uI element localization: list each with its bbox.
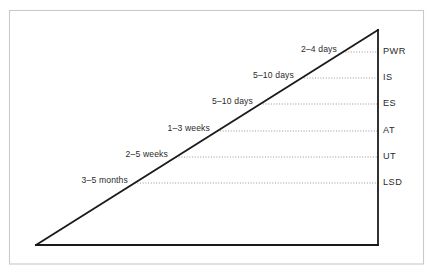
duration-label-at: 1–3 weeks: [112, 124, 210, 133]
duration-label-is: 5–10 days: [196, 71, 294, 80]
duration-label-pwr: 2–4 days: [239, 45, 337, 54]
stage-label-lsd: LSD: [383, 178, 402, 187]
figure-border: [10, 11, 424, 265]
stage-label-ut: UT: [383, 152, 396, 161]
duration-label-lsd: 3–5 months: [27, 176, 128, 185]
duration-label-ut: 2–5 weeks: [70, 150, 168, 159]
figure-root: PWR IS ES AT UT LSD 2–4 days 5–10 days 5…: [0, 0, 433, 276]
stage-label-is: IS: [383, 73, 393, 82]
duration-label-es: 5–10 days: [155, 97, 253, 106]
stage-label-es: ES: [383, 99, 396, 108]
stage-label-at: AT: [383, 126, 395, 135]
diagram-canvas: [0, 0, 433, 276]
stage-label-pwr: PWR: [383, 47, 406, 56]
